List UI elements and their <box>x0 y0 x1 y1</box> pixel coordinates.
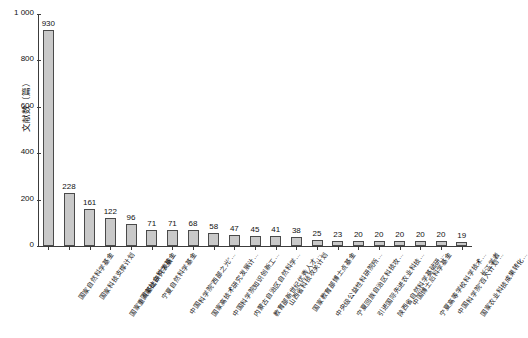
plot-area: 02004006008001 000 930228161122967171685… <box>38 14 472 246</box>
x-axis-tick-mark <box>172 246 173 250</box>
bar <box>332 241 343 246</box>
x-axis-tick-mark <box>358 246 359 250</box>
x-axis-tick-mark <box>276 246 277 250</box>
bar <box>270 236 281 246</box>
x-axis-tick-mark <box>379 246 380 250</box>
y-axis-tick-label: 0 <box>30 241 34 249</box>
bar <box>415 241 426 246</box>
x-axis-tick-mark <box>131 246 132 250</box>
bar <box>456 242 467 246</box>
y-axis-tick-label: 800 <box>21 55 34 63</box>
bar <box>64 193 75 246</box>
bar <box>208 233 219 246</box>
bar <box>436 241 447 246</box>
y-axis-tick-mark <box>37 60 41 61</box>
y-axis-line <box>38 14 39 246</box>
bar <box>167 230 178 246</box>
y-axis-tick: 0 <box>38 246 43 247</box>
x-axis-tick-mark <box>317 246 318 250</box>
y-axis-tick-mark <box>37 14 41 15</box>
y-axis-tick: 1 000 <box>38 14 43 15</box>
x-axis-category-label: 国家自然科学基金 <box>77 251 115 301</box>
y-axis-tick-mark <box>37 153 41 154</box>
bar <box>105 218 116 246</box>
y-axis-tick-label: 1 000 <box>14 9 34 17</box>
x-axis-tick-mark <box>296 246 297 250</box>
x-axis-tick-mark <box>400 246 401 250</box>
x-axis-category-label: 国家社会科学基金 <box>139 251 177 301</box>
bar <box>394 241 405 246</box>
y-axis-tick-mark <box>37 107 41 108</box>
bar-value-label: 228 <box>55 183 83 191</box>
x-axis-tick-mark <box>234 246 235 250</box>
bar <box>291 237 302 246</box>
y-axis-tick-mark <box>37 246 41 247</box>
x-axis-tick-mark <box>462 246 463 250</box>
bar <box>229 235 240 246</box>
bar-value-label: 930 <box>34 20 62 28</box>
x-axis-category-label: 中国科学院“西部之光”… <box>188 251 236 316</box>
bar <box>250 236 261 246</box>
x-axis-tick-mark <box>441 246 442 250</box>
x-axis-tick-mark <box>90 246 91 250</box>
bar-value-label: 19 <box>448 232 476 240</box>
bar-value-label: 161 <box>76 199 104 207</box>
x-axis-tick-mark <box>214 246 215 250</box>
x-axis-tick-mark <box>255 246 256 250</box>
y-axis-tick-label: 400 <box>21 148 34 156</box>
x-axis-tick-mark <box>420 246 421 250</box>
x-axis-tick-mark <box>69 246 70 250</box>
bar <box>146 230 157 246</box>
x-axis-category-label: 国家农业科技成果转化… <box>479 251 528 318</box>
bar <box>188 230 199 246</box>
bar <box>43 30 54 246</box>
y-axis-tick-mark <box>37 200 41 201</box>
x-axis-tick-mark <box>152 246 153 250</box>
bar <box>126 224 137 246</box>
bar <box>312 240 323 246</box>
y-axis-tick-label: 600 <box>21 102 34 110</box>
x-axis-tick-mark <box>48 246 49 250</box>
bar <box>84 209 95 246</box>
bar <box>353 241 364 246</box>
bar <box>374 241 385 246</box>
y-axis-tick-label: 200 <box>21 195 34 203</box>
x-axis-tick-mark <box>110 246 111 250</box>
x-axis-tick-mark <box>193 246 194 250</box>
x-axis-tick-mark <box>338 246 339 250</box>
